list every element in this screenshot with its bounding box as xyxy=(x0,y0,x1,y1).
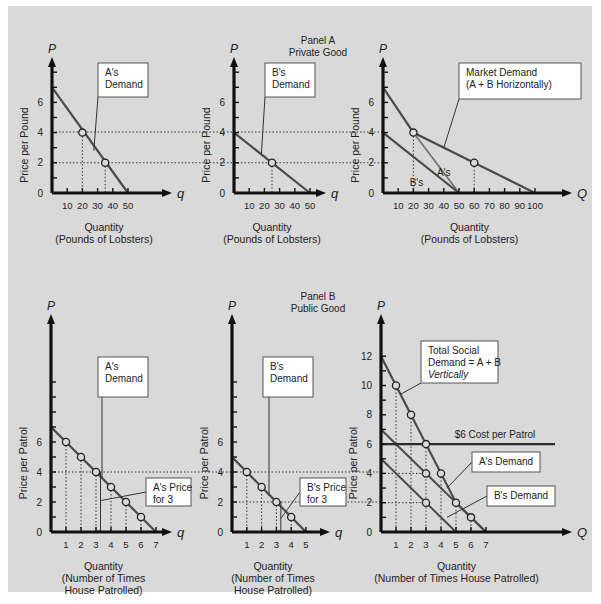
x-tick-label: 10 xyxy=(62,200,73,211)
y-axis-title: Price per Pound xyxy=(349,107,361,182)
panel-title-line: Public Good xyxy=(291,303,345,314)
annotation-text: Vertically xyxy=(428,369,469,380)
data-point-marker xyxy=(410,129,417,136)
y-tick-label: 0 xyxy=(219,188,225,199)
x-tick-label: 2 xyxy=(78,539,83,550)
data-point-marker xyxy=(62,438,69,445)
x-tick-label: 4 xyxy=(438,539,443,550)
data-point-marker xyxy=(437,470,444,477)
x-tick-label: 50 xyxy=(454,200,465,211)
y-axis-symbol: P xyxy=(379,42,387,56)
y-tick-label: 2 xyxy=(368,157,374,168)
data-point-marker xyxy=(407,411,414,418)
y-axis-title: Price per Pound xyxy=(18,107,30,182)
annotation-text: A's Demand xyxy=(479,456,533,467)
y-tick-label: 2 xyxy=(217,497,223,508)
annotation-text: B's xyxy=(272,67,286,78)
x-tick-label: 3 xyxy=(93,539,98,550)
panel-title-line: Panel A xyxy=(301,35,336,46)
x-tick-label: 30 xyxy=(423,200,434,211)
y-axis-symbol: P xyxy=(47,299,55,313)
x-axis-title: House Patrolled) xyxy=(64,584,142,596)
data-point-marker xyxy=(122,498,129,505)
y-tick-label: 12 xyxy=(361,351,373,362)
x-axis-title: (Pounds of Lobsters) xyxy=(55,233,152,245)
data-point-marker xyxy=(392,382,399,389)
data-point-marker xyxy=(288,513,295,520)
y-axis-symbol: P xyxy=(48,42,56,56)
y-tick-label: 4 xyxy=(37,127,43,138)
data-point-marker xyxy=(422,441,429,448)
y-tick-label: 0 xyxy=(36,527,42,538)
annotation-text: for 3 xyxy=(307,494,327,505)
y-axis-symbol: P xyxy=(377,299,385,313)
y-tick-label: 6 xyxy=(217,437,223,448)
x-tick-label: 40 xyxy=(439,200,450,211)
y-tick-label: 6 xyxy=(219,97,225,108)
x-axis-symbol: q xyxy=(335,525,343,540)
x-tick-label: 10 xyxy=(244,200,255,211)
annotation-text: Demand xyxy=(272,79,310,90)
curve-label: $6 Cost per Patrol xyxy=(455,429,536,440)
y-tick-label: 2 xyxy=(37,157,43,168)
y-axis-title: Price per Pound xyxy=(200,107,212,182)
x-tick-label: 50 xyxy=(305,200,316,211)
x-axis-title: (Pounds of Lobsters) xyxy=(223,233,320,245)
y-axis-title: Price per Patrol xyxy=(347,427,359,499)
x-axis-symbol: q xyxy=(177,186,185,201)
annotation-text: A's xyxy=(105,361,119,372)
curve-label: A's xyxy=(437,167,451,178)
x-tick-label: 6 xyxy=(468,539,473,550)
x-axis-symbol: q xyxy=(177,525,185,540)
y-tick-label: 0 xyxy=(217,527,223,538)
annotation-text: Total Social xyxy=(428,345,479,356)
x-tick-label: 6 xyxy=(138,539,143,550)
x-tick-label: 2 xyxy=(408,539,413,550)
x-axis-title: Quantity xyxy=(252,221,292,233)
x-axis-title: House Patrolled) xyxy=(234,584,312,596)
x-tick-label: 10 xyxy=(393,200,404,211)
x-tick-label: 2 xyxy=(259,539,264,550)
x-tick-label: 40 xyxy=(108,200,119,211)
y-axis-title: Price per Patrol xyxy=(17,427,29,499)
figure-canvas: Panel APrivate GoodPanel BPublic GoodPq0… xyxy=(0,0,601,604)
annotation-text: A's xyxy=(105,67,119,78)
x-tick-label: 70 xyxy=(484,200,495,211)
y-tick-label: 6 xyxy=(37,97,43,108)
y-axis-symbol: P xyxy=(230,42,238,56)
data-point-marker xyxy=(137,513,144,520)
y-tick-label: 0 xyxy=(366,527,372,538)
data-point-marker xyxy=(92,468,99,475)
data-point-marker xyxy=(77,453,84,460)
y-axis-title: Price per Patrol xyxy=(198,427,210,499)
annotation-text: A's Price xyxy=(153,482,193,493)
x-tick-label: 3 xyxy=(423,539,428,550)
y-axis-symbol: P xyxy=(228,299,236,313)
y-tick-label: 4 xyxy=(217,467,223,478)
x-tick-label: 7 xyxy=(483,539,488,550)
x-axis-title: Quantity xyxy=(84,221,124,233)
x-tick-label: 40 xyxy=(290,200,301,211)
annotation-text: B's Demand xyxy=(494,490,548,501)
annotation-text: for 3 xyxy=(153,494,173,505)
x-axis-title: Quantity xyxy=(84,560,124,572)
y-tick-label: 10 xyxy=(361,380,373,391)
x-tick-label: 90 xyxy=(515,200,526,211)
y-tick-label: 6 xyxy=(366,439,372,450)
y-tick-label: 2 xyxy=(366,497,372,508)
x-tick-label: 20 xyxy=(77,200,88,211)
data-point-marker xyxy=(258,483,265,490)
x-axis-title: (Number of Times xyxy=(231,572,314,584)
y-tick-label: 6 xyxy=(36,437,42,448)
annotation-text: B's xyxy=(270,361,284,372)
x-axis-title: (Number of Times xyxy=(62,572,145,584)
x-axis-symbol: q xyxy=(331,186,339,201)
x-axis-title: Quantity xyxy=(253,560,293,572)
y-tick-label: 4 xyxy=(366,468,372,479)
data-point-marker xyxy=(102,159,109,166)
y-tick-label: 0 xyxy=(37,188,43,199)
data-point-marker xyxy=(422,470,429,477)
y-tick-label: 8 xyxy=(366,409,372,420)
y-tick-label: 2 xyxy=(219,157,225,168)
x-axis-symbol: Q xyxy=(577,525,587,540)
